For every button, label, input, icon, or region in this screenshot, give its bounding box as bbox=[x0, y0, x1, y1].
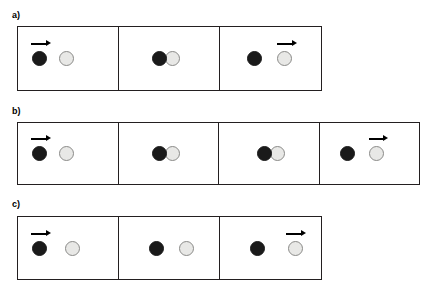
panel-label: b) bbox=[12, 107, 21, 116]
sequence-frame bbox=[320, 123, 420, 184]
arrow-head bbox=[301, 230, 306, 236]
light-ball bbox=[277, 51, 292, 66]
arrow-head bbox=[292, 40, 297, 46]
dark-ball bbox=[340, 146, 355, 161]
dark-ball bbox=[152, 146, 167, 161]
dark-ball bbox=[257, 146, 272, 161]
sequence-strip bbox=[17, 122, 420, 185]
sequence-strip bbox=[17, 216, 322, 280]
sequence-frame bbox=[119, 123, 220, 184]
sequence-frame bbox=[18, 217, 119, 279]
light-ball bbox=[179, 241, 194, 256]
arrow-head bbox=[46, 135, 51, 141]
light-ball bbox=[369, 146, 384, 161]
light-ball bbox=[288, 241, 303, 256]
dark-ball bbox=[250, 241, 265, 256]
motion-arrow-icon bbox=[31, 39, 51, 48]
dark-ball bbox=[247, 51, 262, 66]
sequence-frame bbox=[220, 217, 321, 279]
sequence-frame bbox=[18, 123, 119, 184]
dark-ball bbox=[152, 51, 167, 66]
dark-ball bbox=[32, 241, 47, 256]
light-ball bbox=[59, 51, 74, 66]
arrow-head bbox=[383, 135, 388, 141]
light-ball bbox=[165, 146, 180, 161]
light-ball bbox=[165, 51, 180, 66]
sequence-frame bbox=[18, 27, 119, 90]
panel-label: a) bbox=[12, 11, 20, 20]
sequence-frame bbox=[119, 27, 220, 90]
sequence-frame bbox=[220, 27, 321, 90]
sequence-frame bbox=[119, 217, 220, 279]
arrow-head bbox=[46, 230, 51, 236]
sequence-frame bbox=[219, 123, 320, 184]
motion-arrow-icon bbox=[31, 229, 51, 238]
motion-arrow-icon bbox=[277, 39, 297, 48]
motion-arrow-icon bbox=[369, 134, 389, 143]
motion-arrow-icon bbox=[31, 134, 51, 143]
light-ball bbox=[59, 146, 74, 161]
panel-label: c) bbox=[12, 200, 20, 209]
light-ball bbox=[270, 146, 285, 161]
motion-arrow-icon bbox=[286, 229, 306, 238]
sequence-strip bbox=[17, 26, 322, 91]
light-ball bbox=[65, 241, 80, 256]
dark-ball bbox=[149, 241, 164, 256]
dark-ball bbox=[32, 146, 47, 161]
arrow-head bbox=[46, 40, 51, 46]
dark-ball bbox=[32, 51, 47, 66]
